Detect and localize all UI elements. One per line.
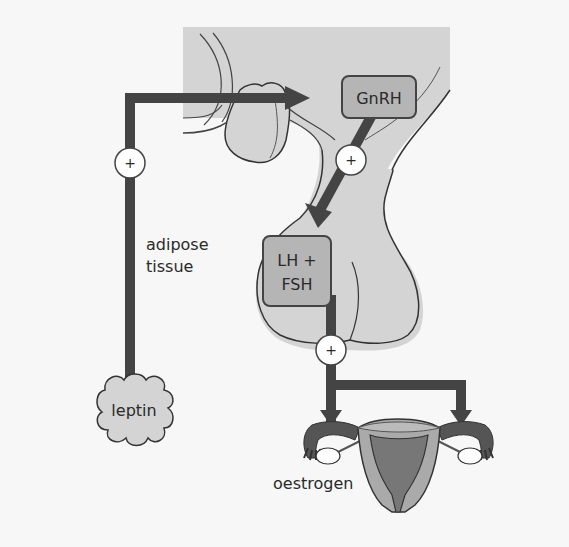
hpg-axis-diagram: GnRH LH + FSH + + + adipose tissue lepti… [0, 0, 569, 547]
lh-fsh-label-line1: LH + [277, 251, 316, 270]
leptin-label: leptin [111, 401, 156, 420]
stimulation-marker-leptin: + [115, 148, 145, 178]
stimulation-marker-gnrh: + [336, 145, 366, 175]
gnrh-node: GnRH [342, 76, 416, 118]
uterus-ovaries [304, 419, 493, 512]
oestrogen-label: oestrogen [273, 474, 353, 493]
gnrh-label: GnRH [356, 89, 402, 108]
stimulation-marker-lhfsh: + [316, 335, 346, 365]
adipose-label-line1: adipose [146, 235, 209, 254]
adipose-label-line2: tissue [146, 257, 193, 276]
svg-text:+: + [345, 152, 357, 168]
lh-fsh-node: LH + FSH [263, 236, 331, 306]
leptin-node: leptin [97, 374, 173, 446]
svg-text:+: + [124, 155, 136, 171]
lh-fsh-label-line2: FSH [281, 275, 312, 294]
svg-text:+: + [325, 342, 337, 358]
